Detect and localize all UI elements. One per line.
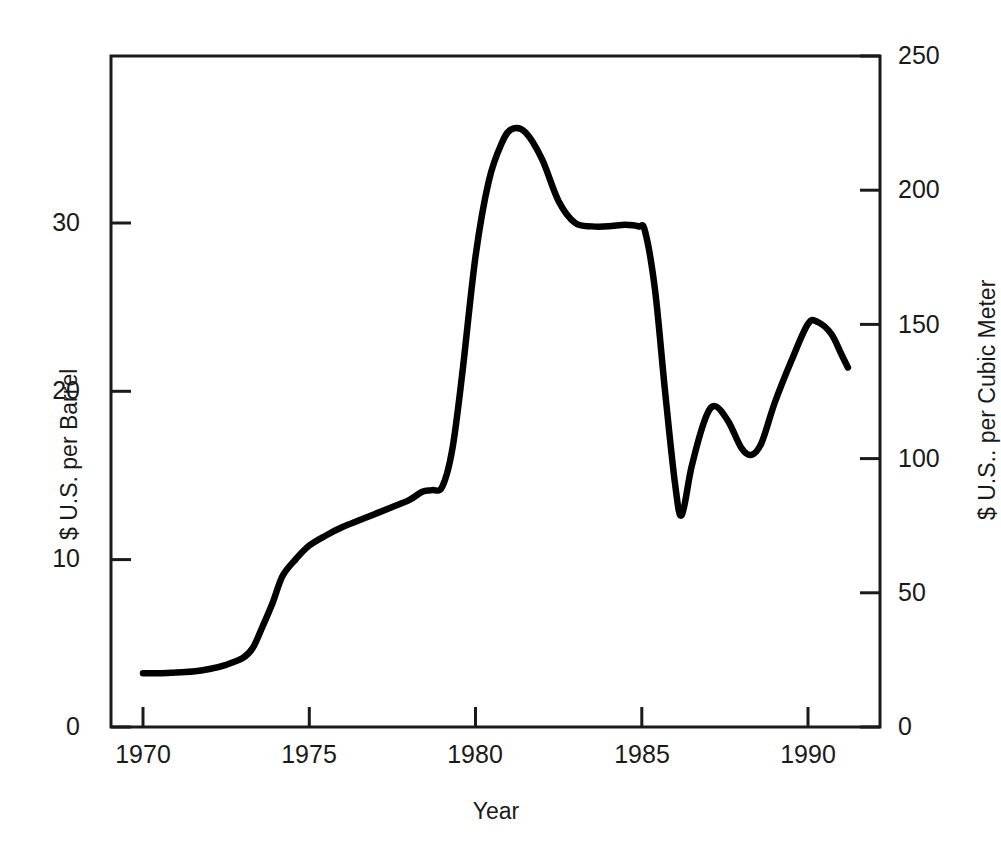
x-tick-label-1980: 1980 (415, 742, 535, 767)
data-line-crude-oil-price (143, 128, 848, 673)
x-tick-label-1970: 1970 (83, 742, 203, 767)
y2-tick-label-150: 150 (898, 312, 940, 337)
x-tick-label-1975: 1975 (249, 742, 369, 767)
y2-tick-label-100: 100 (898, 446, 940, 471)
y-axis-left-ticks (111, 223, 131, 727)
y2-tick-label-200: 200 (898, 177, 940, 202)
chart-figure: 0 10 20 30 0 50 100 150 200 250 1970 197… (0, 0, 1001, 857)
x-tick-label-1985: 1985 (582, 742, 702, 767)
line-chart-plot (0, 0, 1001, 857)
y-axis-title-right: $ U.S.. per Cubic Meter (976, 280, 999, 520)
y-axis-title-left: $ U.S. per Barrel (58, 369, 81, 540)
x-tick-label-1990: 1990 (748, 742, 868, 767)
y2-tick-label-50: 50 (898, 580, 926, 605)
y-tick-label-30: 30 (24, 210, 80, 235)
y2-tick-label-0: 0 (898, 714, 912, 739)
x-axis-title: Year (436, 800, 556, 823)
x-axis-ticks (143, 707, 808, 727)
y-tick-label-0: 0 (24, 714, 80, 739)
y-axis-right-ticks (860, 56, 880, 727)
y-tick-label-10: 10 (24, 546, 80, 571)
y2-tick-label-250: 250 (898, 43, 940, 68)
